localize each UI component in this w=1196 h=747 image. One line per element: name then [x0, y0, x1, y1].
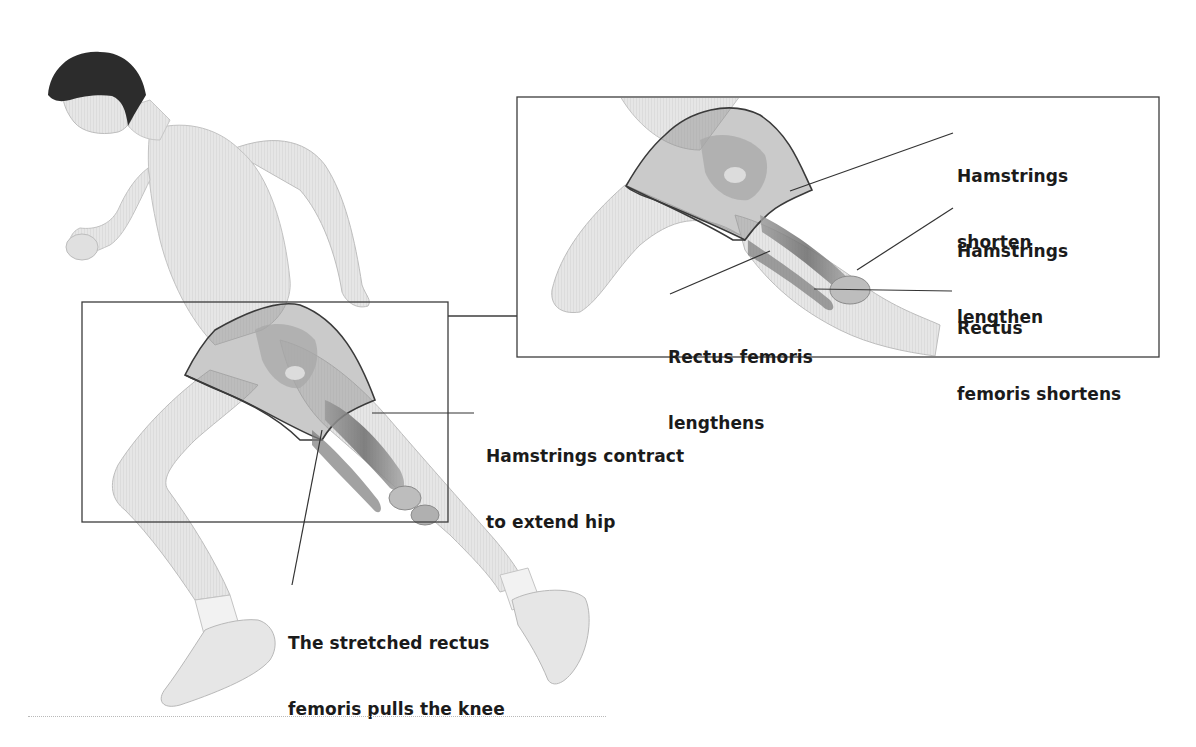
label-hamstrings-contract: Hamstrings contract to extend hip — [486, 401, 684, 555]
label-line: Hamstrings — [957, 240, 1068, 262]
label-rectus-femoris-stretched: The stretched rectus femoris pulls the k… — [288, 588, 513, 747]
label-line: Hamstrings contract — [486, 445, 684, 467]
figure-bottom-rule — [28, 716, 606, 717]
label-line: Rectus femoris — [668, 346, 813, 368]
label-line: femoris shortens — [957, 383, 1121, 405]
label-rectus-femoris-lengthens: Rectus femoris lengthens — [668, 302, 813, 456]
label-line: to extend hip — [486, 511, 684, 533]
label-line: The stretched rectus — [288, 632, 513, 654]
label-line: Rectus — [957, 317, 1121, 339]
label-line: Hamstrings — [957, 165, 1068, 187]
leader-rectus-stretched — [292, 430, 322, 585]
label-rectus-femoris-shortens: Rectus femoris shortens — [957, 273, 1121, 427]
label-line: lengthens — [668, 412, 813, 434]
